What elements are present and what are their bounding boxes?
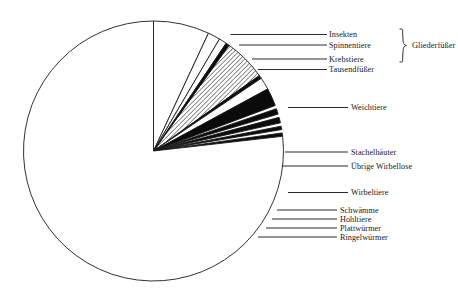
label-stachelhaeuter: Stachelhäuter [351,148,396,157]
label-ringelwuermer: Ringelwürmer [340,233,388,242]
label-spinnentiere: Spinnentiere [329,41,371,50]
label-uebrige-wirbellose: Übrige Wirbellose [351,162,412,171]
pie-slice-group [23,21,283,281]
gliederfuesser-brace-icon [400,29,407,62]
pie-chart-figure: Insekten Spinnentiere Krebstiere Tausend… [0,0,458,298]
label-plattwuermer: Plattwürmer [340,224,381,233]
label-gliederfuesser: Gliederfüßer [412,41,455,50]
label-krebstiere: Krebstiere [329,55,364,64]
label-schwaemme: Schwämme [340,206,379,215]
label-insekten: Insekten [329,30,357,39]
label-tausendfuesser: Tausendfüßer [329,65,374,74]
label-wirbeltiere: Wirbeltiere [351,188,389,197]
label-weichtiere: Weichtiere [351,103,387,112]
label-hohltiere: Hohltiere [340,215,371,224]
